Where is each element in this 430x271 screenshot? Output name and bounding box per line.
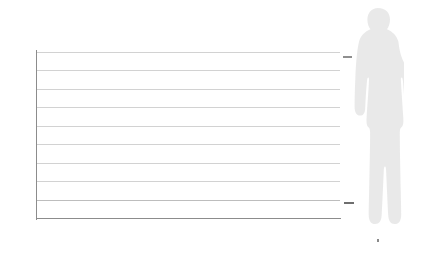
series-lines [36, 52, 341, 219]
chart-canvas [0, 0, 430, 271]
person-silhouette-watermark [352, 6, 404, 228]
legend-connector-top [343, 56, 352, 58]
y-axis-labels [0, 52, 34, 218]
dak-logo [377, 228, 425, 247]
legend-connector-bottom [344, 202, 354, 204]
dak-wordmark [377, 239, 379, 242]
